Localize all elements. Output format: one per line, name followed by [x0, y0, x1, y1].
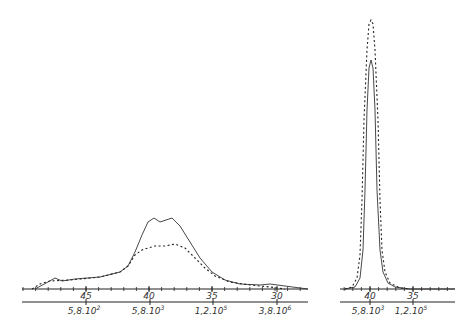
- chromatogram-figure: 454035305,8.1025,8.1031,2.1053,8.106 403…: [0, 0, 463, 334]
- bottom-axis-tick-label: 5,8.102: [68, 304, 101, 316]
- bottom-axis-tick-label: 3,8.106: [259, 304, 292, 316]
- left-major-ticks: 454035305,8.1025,8.1031,2.1053,8.106: [68, 286, 292, 316]
- left-solid-curve: [35, 218, 308, 289]
- bottom-axis-tick-label: 1,2.105: [195, 304, 228, 316]
- right-panel: 40355,8.1031,2.105: [340, 20, 455, 316]
- bottom-axis-tick-label: 1,2.105: [395, 304, 428, 316]
- top-axis-tick-label: 35: [206, 291, 218, 301]
- right-solid-curve: [345, 60, 455, 289]
- left-panel: 454035305,8.1025,8.1031,2.1053,8.106: [22, 218, 308, 316]
- top-axis-tick-label: 40: [143, 291, 155, 301]
- bottom-axis-tick-label: 5,8.103: [132, 304, 165, 316]
- left-dashed-curve: [32, 244, 285, 289]
- bottom-axis-tick-label: 5,8.103: [352, 304, 385, 316]
- right-dashed-curve: [345, 20, 410, 289]
- right-major-ticks: 40355,8.1031,2.105: [352, 286, 428, 316]
